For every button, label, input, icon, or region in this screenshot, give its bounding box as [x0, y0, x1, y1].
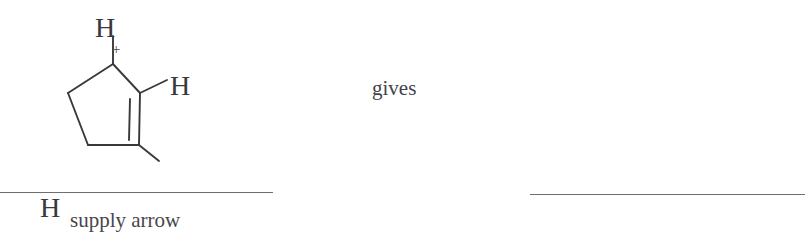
figure-canvas: H H H + gives supply arrow	[0, 0, 805, 242]
atom-label-h-top: H	[95, 14, 115, 42]
bond-c3-to-h-bottom	[139, 145, 159, 161]
molecule-skeleton	[40, 4, 260, 194]
answer-rule-left	[0, 192, 273, 193]
molecule-cyclopentenyl-cation: H H H +	[40, 4, 260, 194]
positive-charge-label: +	[112, 42, 120, 57]
bond-c2-c3-inner	[129, 99, 130, 140]
atom-label-h-bottom: H	[40, 194, 60, 222]
answer-rule-right	[530, 194, 805, 195]
atom-label-h-right: H	[170, 72, 190, 100]
bond-c1-c2	[113, 64, 140, 93]
connective-text-gives: gives	[372, 78, 416, 99]
bond-c2-c3-outer	[139, 93, 140, 145]
bond-c5-c4	[68, 93, 88, 145]
bond-c1-c5	[68, 64, 113, 93]
answer-rule-left-caption: supply arrow	[70, 210, 180, 231]
bond-c2-to-h-right	[140, 80, 167, 93]
